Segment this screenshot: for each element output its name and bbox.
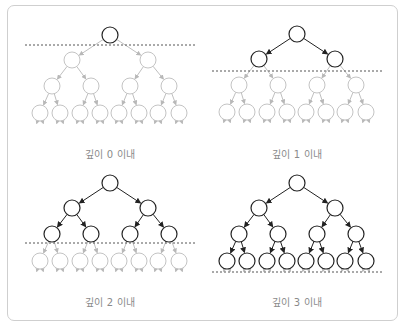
- unexplored-edge: [309, 92, 314, 103]
- unexplored-edge: [122, 93, 127, 104]
- explored-node: [44, 226, 60, 242]
- explored-node: [239, 253, 255, 269]
- panel-depth3: [212, 175, 382, 272]
- dfs-depth-limit-diagram: [0, 0, 406, 329]
- unexplored-edge: [359, 93, 363, 104]
- unexplored-node: [122, 78, 138, 94]
- explored-edge: [281, 242, 285, 253]
- unexplored-edge: [231, 92, 236, 103]
- unexplored-edge: [83, 93, 88, 104]
- explored-edge: [244, 214, 254, 227]
- unexplored-node: [309, 77, 325, 93]
- unexplored-node: [150, 105, 166, 121]
- panel-depth1: [212, 26, 382, 122]
- explored-edge: [340, 214, 350, 227]
- unexplored-edge: [44, 93, 49, 104]
- unexplored-edge: [320, 93, 324, 104]
- unexplored-edge: [54, 94, 57, 105]
- panel-depth2: [25, 175, 195, 271]
- unexplored-node: [111, 253, 127, 269]
- unexplored-node: [171, 105, 187, 121]
- explored-edge: [80, 187, 104, 203]
- unexplored-node: [279, 104, 295, 120]
- unexplored-edge: [133, 94, 137, 105]
- panel-caption: 깊이 1 이내: [222, 146, 372, 161]
- unexplored-edge: [172, 94, 176, 105]
- explored-node: [64, 200, 80, 216]
- explored-edge: [264, 214, 273, 226]
- explored-node: [251, 200, 267, 216]
- unexplored-node: [92, 105, 108, 121]
- explored-node: [289, 26, 305, 42]
- explored-node: [348, 226, 364, 242]
- explored-edge: [322, 215, 330, 227]
- unexplored-edge: [161, 93, 166, 104]
- unexplored-node: [358, 104, 374, 120]
- unexplored-node: [44, 78, 60, 94]
- unexplored-edge: [244, 65, 254, 78]
- unexplored-node: [32, 253, 48, 269]
- unexplored-node: [131, 253, 147, 269]
- unexplored-node: [259, 104, 275, 120]
- explored-edge: [270, 241, 275, 252]
- unexplored-node: [298, 104, 314, 120]
- explored-node: [327, 200, 343, 216]
- unexplored-node: [32, 105, 48, 121]
- unexplored-edge: [322, 66, 330, 78]
- unexplored-node: [140, 52, 156, 68]
- unexplored-edge: [241, 93, 244, 104]
- unexplored-node: [52, 253, 68, 269]
- unexplored-edge: [281, 93, 285, 104]
- explored-node: [251, 51, 267, 67]
- explored-edge: [77, 214, 86, 226]
- unexplored-edge: [270, 92, 275, 103]
- panel-depth0: [25, 27, 195, 123]
- unexplored-edge: [57, 66, 67, 79]
- unexplored-edge: [94, 94, 98, 105]
- explored-node: [102, 27, 118, 43]
- unexplored-node: [219, 104, 235, 120]
- explored-edge: [231, 241, 236, 252]
- unexplored-node: [52, 105, 68, 121]
- unexplored-node: [64, 52, 80, 68]
- explored-node: [122, 226, 138, 242]
- explored-node: [140, 200, 156, 216]
- unexplored-edge: [135, 67, 143, 79]
- unexplored-node: [72, 253, 88, 269]
- unexplored-edge: [153, 66, 163, 79]
- explored-node: [289, 175, 305, 191]
- unexplored-edge: [117, 39, 141, 55]
- unexplored-node: [111, 105, 127, 121]
- explored-node: [298, 253, 314, 269]
- explored-edge: [348, 241, 353, 252]
- unexplored-node: [239, 104, 255, 120]
- unexplored-edge: [77, 66, 86, 78]
- explored-node: [161, 226, 177, 242]
- explored-edge: [153, 214, 163, 227]
- explored-edge: [267, 38, 291, 54]
- explored-edge: [267, 187, 291, 203]
- explored-node: [318, 253, 334, 269]
- explored-node: [219, 253, 235, 269]
- explored-node: [337, 253, 353, 269]
- explored-node: [327, 51, 343, 67]
- unexplored-edge: [348, 92, 353, 103]
- unexplored-node: [348, 77, 364, 93]
- unexplored-node: [161, 78, 177, 94]
- unexplored-node: [83, 78, 99, 94]
- explored-node: [270, 226, 286, 242]
- explored-edge: [304, 38, 328, 54]
- explored-edge: [117, 187, 141, 203]
- unexplored-node: [171, 253, 187, 269]
- explored-edge: [309, 241, 314, 252]
- explored-edge: [57, 214, 67, 227]
- explored-edge: [320, 242, 324, 253]
- unexplored-edge: [340, 65, 350, 78]
- unexplored-edge: [264, 65, 273, 77]
- unexplored-node: [318, 104, 334, 120]
- explored-edge: [359, 242, 363, 253]
- explored-node: [231, 226, 247, 242]
- explored-node: [83, 226, 99, 242]
- explored-edge: [241, 242, 244, 253]
- unexplored-node: [270, 77, 286, 93]
